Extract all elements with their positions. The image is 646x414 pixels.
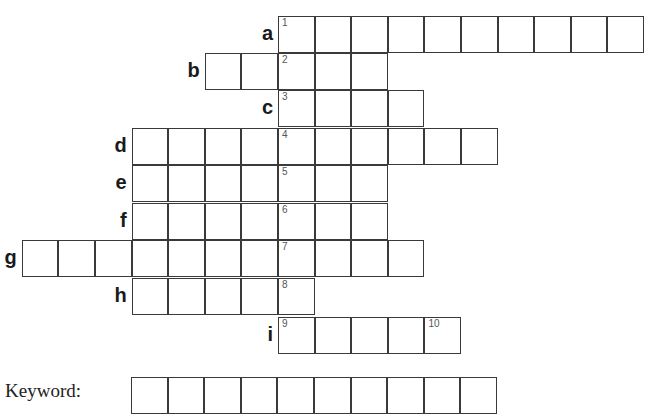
row-label: a	[253, 20, 273, 46]
row-label: c	[253, 94, 273, 120]
grid-cell[interactable]	[168, 203, 205, 240]
grid-cell[interactable]	[205, 165, 242, 202]
grid-cell[interactable]	[168, 278, 205, 315]
keyword-cell[interactable]	[277, 377, 314, 414]
keyword-cell[interactable]	[204, 377, 241, 414]
grid-cell[interactable]	[351, 16, 388, 53]
grid-cell[interactable]	[351, 53, 388, 90]
grid-cell[interactable]	[205, 203, 242, 240]
cell-number: 3	[282, 92, 288, 102]
grid-cell[interactable]	[168, 165, 205, 202]
clue-row-c: c3	[278, 90, 424, 127]
grid-cell[interactable]	[168, 240, 205, 277]
clue-row-e: e5	[132, 165, 388, 202]
grid-cell[interactable]	[607, 16, 644, 53]
grid-cell[interactable]	[388, 240, 425, 277]
grid-cell[interactable]: 7	[278, 240, 315, 277]
row-label: i	[253, 321, 273, 347]
row-label: g	[0, 244, 17, 270]
grid-cell[interactable]	[534, 16, 571, 53]
grid-cell[interactable]	[315, 128, 352, 165]
grid-cell[interactable]	[315, 240, 352, 277]
grid-cell[interactable]	[424, 16, 461, 53]
cell-number: 8	[282, 280, 288, 290]
grid-cell[interactable]	[95, 240, 132, 277]
grid-cell[interactable]	[241, 165, 278, 202]
grid-cell[interactable]	[351, 317, 388, 354]
clue-row-d: d4	[132, 128, 498, 165]
grid-cell[interactable]	[241, 53, 278, 90]
grid-cell[interactable]	[388, 317, 425, 354]
grid-cell[interactable]	[351, 90, 388, 127]
clue-row-f: f6	[132, 203, 388, 240]
grid-cell[interactable]	[388, 16, 425, 53]
clue-row-b: b2	[205, 53, 388, 90]
grid-cell[interactable]	[205, 278, 242, 315]
clue-row-a: a1	[278, 16, 644, 53]
grid-cell[interactable]	[315, 203, 352, 240]
grid-cell[interactable]	[351, 165, 388, 202]
grid-cell[interactable]	[132, 240, 169, 277]
grid-cell[interactable]	[205, 128, 242, 165]
grid-cell[interactable]: 10	[424, 317, 461, 354]
cell-number: 5	[282, 167, 288, 177]
cell-number: 9	[282, 319, 288, 329]
grid-cell[interactable]	[205, 53, 242, 90]
keyword-cell[interactable]	[314, 377, 351, 414]
grid-cell[interactable]	[498, 16, 535, 53]
grid-cell[interactable]	[241, 203, 278, 240]
grid-cell[interactable]	[571, 16, 608, 53]
keyword-cell[interactable]	[460, 377, 497, 414]
grid-cell[interactable]	[132, 203, 169, 240]
cell-number: 1	[282, 18, 288, 28]
grid-cell[interactable]: 1	[278, 16, 315, 53]
grid-cell[interactable]	[461, 16, 498, 53]
keyword-cell[interactable]	[241, 377, 278, 414]
grid-cell[interactable]	[388, 128, 425, 165]
grid-cell[interactable]	[351, 203, 388, 240]
row-label: b	[180, 57, 200, 83]
grid-cell[interactable]: 2	[278, 53, 315, 90]
grid-cell[interactable]	[132, 165, 169, 202]
cell-number: 7	[282, 242, 288, 252]
keyword-label: Keyword:	[5, 380, 81, 402]
grid-cell[interactable]: 9	[278, 317, 315, 354]
cell-number: 6	[282, 205, 288, 215]
grid-cell[interactable]: 3	[278, 90, 315, 127]
keyword-cell[interactable]	[387, 377, 424, 414]
keyword-cell[interactable]	[424, 377, 461, 414]
grid-cell[interactable]: 5	[278, 165, 315, 202]
grid-cell[interactable]	[351, 128, 388, 165]
grid-cell[interactable]	[315, 317, 352, 354]
grid-cell[interactable]	[388, 90, 425, 127]
row-label: e	[107, 169, 127, 195]
grid-cell[interactable]	[315, 90, 352, 127]
grid-cell[interactable]: 8	[278, 278, 315, 315]
grid-cell[interactable]	[351, 240, 388, 277]
grid-cell[interactable]	[315, 16, 352, 53]
grid-cell[interactable]	[241, 240, 278, 277]
clue-row-g: g7	[22, 240, 425, 277]
clue-row-h: h8	[132, 278, 315, 315]
cell-number: 10	[428, 319, 439, 329]
grid-cell[interactable]	[315, 165, 352, 202]
grid-cell[interactable]	[205, 240, 242, 277]
keyword-cell[interactable]	[131, 377, 168, 414]
keyword-cell[interactable]	[351, 377, 388, 414]
grid-cell[interactable]	[132, 128, 169, 165]
grid-cell[interactable]	[168, 128, 205, 165]
grid-cell[interactable]	[241, 278, 278, 315]
cell-number: 4	[282, 130, 288, 140]
grid-cell[interactable]	[461, 128, 498, 165]
clue-row-i: i910	[278, 317, 461, 354]
grid-cell[interactable]	[315, 53, 352, 90]
grid-cell[interactable]	[132, 278, 169, 315]
grid-cell[interactable]	[241, 128, 278, 165]
grid-cell[interactable]	[22, 240, 59, 277]
grid-cell[interactable]	[58, 240, 95, 277]
grid-cell[interactable]: 4	[278, 128, 315, 165]
grid-cell[interactable]: 6	[278, 203, 315, 240]
grid-cell[interactable]	[424, 128, 461, 165]
cell-number: 2	[282, 55, 288, 65]
keyword-cell[interactable]	[168, 377, 205, 414]
